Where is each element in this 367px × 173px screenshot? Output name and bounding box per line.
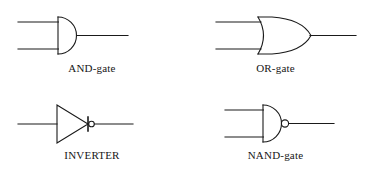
and-body-arc xyxy=(58,17,77,54)
or-body-outline xyxy=(258,17,311,54)
inverter-symbol xyxy=(0,87,184,149)
gate-label-and: AND-gate xyxy=(0,62,184,74)
gate-cell-nand: NAND-gate xyxy=(184,87,367,173)
gate-label-inverter: INVERTER xyxy=(0,149,184,161)
gate-cell-inverter: INVERTER xyxy=(0,87,184,173)
nand-bubble xyxy=(281,120,288,127)
nand-gate-symbol xyxy=(184,87,367,149)
or-gate-symbol xyxy=(184,0,367,62)
gate-label-or: OR-gate xyxy=(184,62,367,74)
logic-gates-figure: AND-gate OR-gate INVERTER xyxy=(0,0,367,173)
inverter-bubble xyxy=(89,121,95,127)
gate-cell-and: AND-gate xyxy=(0,0,184,87)
and-gate-symbol xyxy=(0,0,184,62)
gate-cell-or: OR-gate xyxy=(184,0,367,87)
nand-body-arc xyxy=(263,105,282,142)
inverter-triangle xyxy=(57,105,88,143)
gate-label-nand: NAND-gate xyxy=(184,149,367,161)
